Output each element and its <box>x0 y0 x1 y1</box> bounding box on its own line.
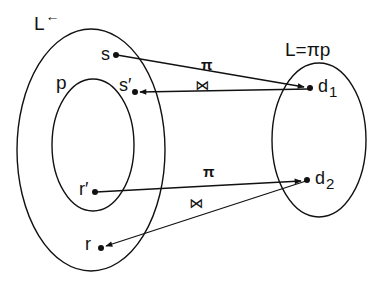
edge-label-join-top: ⋈ <box>195 78 209 92</box>
point-s <box>113 52 119 58</box>
edge-d2-to-r <box>106 181 306 246</box>
point-d1-base: d <box>318 76 328 96</box>
point-d1 <box>307 85 313 91</box>
point-r <box>98 245 104 251</box>
point-s-label: s <box>101 45 110 63</box>
edge-label-join-bottom: ⋈ <box>189 196 203 210</box>
edge-label-pi-bottom: π <box>203 164 214 179</box>
point-d1-label: d1 <box>318 77 337 95</box>
point-d2-label: d2 <box>315 169 334 187</box>
inner-set-label-text: p <box>56 72 67 93</box>
right-set-label: L=πp <box>285 40 330 59</box>
bowtie-join-icon: ⋈ <box>195 77 209 93</box>
point-r-text: r <box>85 234 91 254</box>
point-s-prime-label: s′ <box>119 76 131 94</box>
set-mapping-diagram: L← p L=πp s s′ r′ r d1 d2 π ⋈ π ⋈ <box>0 0 379 284</box>
left-arrow-icon: ← <box>46 8 60 24</box>
point-r-prime-text: r′ <box>79 179 88 199</box>
point-d2 <box>304 177 310 183</box>
point-s-prime <box>132 89 138 95</box>
point-r-prime-label: r′ <box>79 180 88 198</box>
point-r-label: r <box>85 235 91 253</box>
outer-set-label: L← <box>34 14 60 33</box>
point-d2-sub: 2 <box>326 175 334 192</box>
edge-label-pi-top: π <box>201 57 212 72</box>
point-d1-sub: 1 <box>329 83 337 100</box>
right-set-label-text: L=πp <box>285 39 330 60</box>
point-d2-base: d <box>315 168 325 188</box>
bowtie-join-icon: ⋈ <box>189 195 203 211</box>
point-s-prime-text: s′ <box>119 75 131 95</box>
outer-set-label-text: L <box>34 13 45 34</box>
inner-set-label: p <box>56 73 67 92</box>
point-s-text: s <box>101 44 110 64</box>
pi-symbol: π <box>203 163 214 180</box>
pi-symbol: π <box>201 56 212 73</box>
point-r-prime <box>92 189 98 195</box>
